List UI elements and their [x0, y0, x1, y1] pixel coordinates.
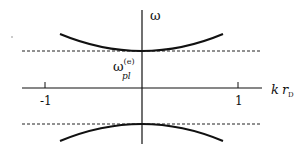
tick-label-pos1: 1: [235, 94, 243, 108]
asymptote-label-sub: pl: [122, 71, 131, 81]
y-axis-label: ω: [150, 8, 161, 23]
x-axis-label: krD: [271, 82, 294, 99]
tick-label-neg1: -1: [40, 94, 52, 108]
dispersion-diagram: ω ω(e) pl -1 1 krD: [0, 0, 305, 151]
stray-dot: [11, 36, 13, 38]
